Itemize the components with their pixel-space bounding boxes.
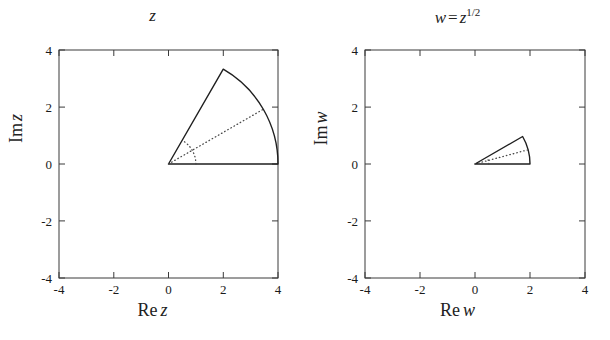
y-tick-label: -2 (41, 214, 52, 229)
x-tick-label: 2 (527, 282, 534, 297)
angle-arc-w (487, 157, 489, 164)
y-tick-label: -4 (41, 271, 52, 286)
x-axis-label-w: Rew (305, 300, 610, 321)
x-axis-label-z-var: z (157, 300, 167, 320)
plot-panel-z: z Imz (0, 0, 305, 340)
x-tick-labels-w: -4 -2 0 2 4 (360, 282, 589, 297)
x-tick-label: -2 (108, 282, 119, 297)
figure-canvas: z Imz (0, 0, 610, 340)
x-tick-label: -4 (360, 282, 371, 297)
y-tick-label: 0 (46, 157, 53, 172)
y-tick-label: 2 (352, 100, 359, 115)
y-tick-label: 0 (352, 157, 359, 172)
sector-boundary-z (169, 69, 279, 164)
axes-w: -4 -2 0 2 4 -4 -2 0 2 4 (305, 0, 610, 340)
x-tick-label: 2 (220, 282, 227, 297)
x-tick-label: 0 (165, 282, 172, 297)
y-tick-label: 4 (46, 43, 53, 58)
x-tick-label: -2 (415, 282, 426, 297)
x-axis-label-z: Rez (0, 300, 305, 321)
radial-ray-w (475, 150, 528, 164)
x-axis-label-w-var: w (460, 300, 475, 320)
radial-ray-z (169, 109, 264, 164)
axes-z: -4 -2 0 2 4 -4 -2 0 2 4 (0, 0, 305, 340)
y-tick-label: 2 (46, 100, 53, 115)
x-tick-label: 4 (582, 282, 589, 297)
y-tick-labels-w: -4 -2 0 2 4 (347, 43, 358, 286)
plot-panel-w: w=z1/2 Imw (305, 0, 610, 340)
angle-arc-z (182, 140, 196, 164)
y-tick-labels-z: -4 -2 0 2 4 (41, 43, 52, 286)
y-tick-label: -2 (347, 214, 358, 229)
y-tick-label: 4 (352, 43, 359, 58)
y-tick-label: -4 (347, 271, 358, 286)
x-tick-label: 4 (275, 282, 282, 297)
sector-boundary-w (475, 137, 530, 165)
x-axis-label-w-prefix: Re (440, 300, 460, 320)
x-axis-label-z-prefix: Re (137, 300, 157, 320)
x-tick-label: -4 (54, 282, 65, 297)
x-tick-labels-z: -4 -2 0 2 4 (54, 282, 282, 297)
x-tick-label: 0 (472, 282, 479, 297)
